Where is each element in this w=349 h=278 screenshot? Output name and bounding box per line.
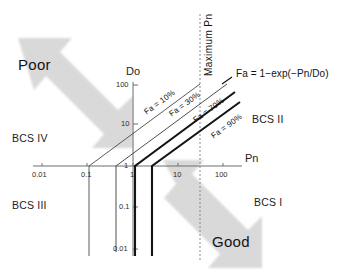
x-tick-0: 0.01 (32, 171, 47, 179)
y-tick-0-01: 0.01 (113, 245, 128, 253)
quadrant-bcs-iii: BCS III (12, 200, 47, 211)
y-tick-10: 10 (121, 120, 129, 128)
quadrant-bcs-iv: BCS IV (12, 133, 48, 144)
x-tick-1: 0.1 (81, 171, 91, 179)
x-tick-4: 100 (215, 171, 228, 179)
equation-leader (222, 77, 232, 84)
quadrant-bcs-ii: BCS II (252, 114, 284, 125)
y-axis-label: Do (126, 66, 140, 77)
x-axis-label: Pn (245, 153, 258, 164)
equation-label: Fa = 1−exp(−Pn/Do) (236, 69, 329, 79)
plot-layer (0, 0, 349, 278)
x-tick-3: 10 (173, 171, 181, 179)
quadrant-bcs-i: BCS I (254, 197, 282, 208)
y-tick-0-1: 0.1 (119, 203, 129, 211)
good-arrow-label: Good (212, 234, 250, 249)
y-tick-1: 1 (124, 162, 128, 170)
x-tick-2: 1 (130, 171, 134, 179)
figure-canvas: Poor Good BCS IV BCS III BCS II BCS I Do… (0, 0, 349, 278)
y-tick-100: 100 (116, 81, 129, 89)
poor-arrow-label: Poor (18, 57, 51, 72)
maximum-pn-label: Maximum Pn (204, 14, 214, 76)
